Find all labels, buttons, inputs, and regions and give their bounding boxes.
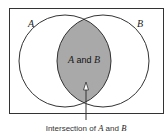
intersection-label: A and B xyxy=(67,54,100,65)
set-b-label: B xyxy=(137,18,143,29)
venn-diagram: A B A and B Intersection of A and B xyxy=(0,0,166,140)
caption: Intersection of A and B xyxy=(46,123,127,133)
set-a-label: A xyxy=(27,18,35,29)
